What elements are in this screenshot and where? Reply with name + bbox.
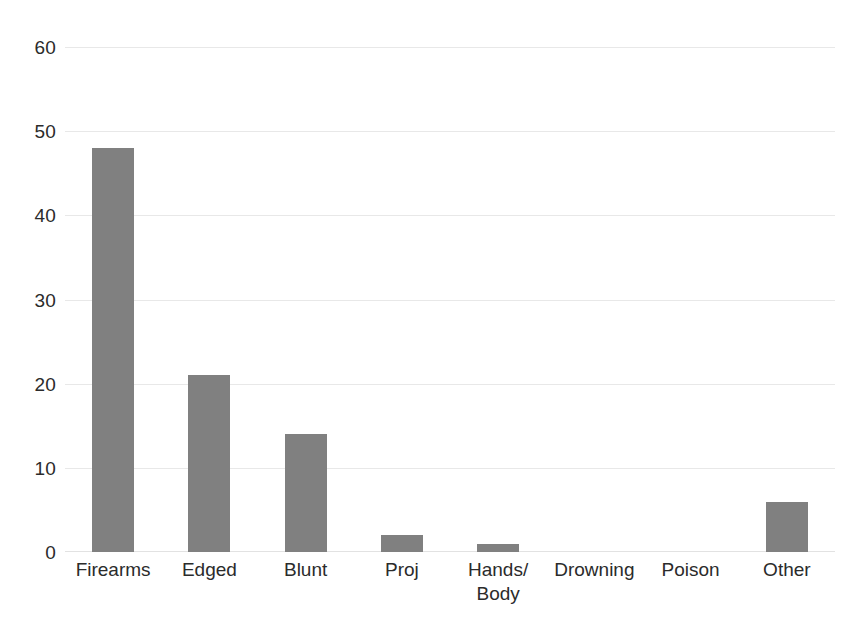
y-axis-tick-label: 40 bbox=[8, 206, 56, 225]
x-axis-tick-label-proj: Proj bbox=[354, 558, 450, 582]
x-axis-tick-label-hands-body: Hands/ Body bbox=[450, 558, 546, 606]
bar-edged bbox=[188, 375, 230, 552]
bar-blunt bbox=[285, 434, 327, 552]
x-axis-tick-label-firearms: Firearms bbox=[65, 558, 161, 582]
bar-slot bbox=[450, 47, 546, 552]
bars-layer bbox=[65, 47, 835, 552]
y-axis-tick-label: 30 bbox=[8, 291, 56, 310]
x-axis-tick-label-other: Other bbox=[739, 558, 835, 582]
y-axis-tick-label: 50 bbox=[8, 122, 56, 141]
x-axis-tick-label-blunt: Blunt bbox=[258, 558, 354, 582]
bar-slot bbox=[258, 47, 354, 552]
bar-slot bbox=[354, 47, 450, 552]
bar-chart: 60 50 40 30 20 10 0 bbox=[0, 0, 864, 631]
x-axis-tick-label-poison: Poison bbox=[643, 558, 739, 582]
x-axis: Firearms Edged Blunt Proj Hands/ Body Dr… bbox=[65, 558, 835, 628]
x-axis-tick-label-drowning: Drowning bbox=[546, 558, 642, 582]
bar-slot bbox=[546, 47, 642, 552]
bar-firearms bbox=[92, 148, 134, 552]
y-axis-tick-label: 20 bbox=[8, 375, 56, 394]
y-axis-tick-label: 10 bbox=[8, 459, 56, 478]
bar-slot bbox=[161, 47, 257, 552]
bar-proj bbox=[381, 535, 423, 552]
bar-hands-body bbox=[477, 544, 519, 552]
y-axis-tick-label: 60 bbox=[8, 38, 56, 57]
y-axis: 60 50 40 30 20 10 0 bbox=[0, 0, 56, 631]
bar-slot bbox=[65, 47, 161, 552]
y-axis-tick-label: 0 bbox=[8, 543, 56, 562]
x-axis-tick-label-edged: Edged bbox=[161, 558, 257, 582]
bar-slot bbox=[739, 47, 835, 552]
bar-other bbox=[766, 502, 808, 553]
bar-slot bbox=[643, 47, 739, 552]
